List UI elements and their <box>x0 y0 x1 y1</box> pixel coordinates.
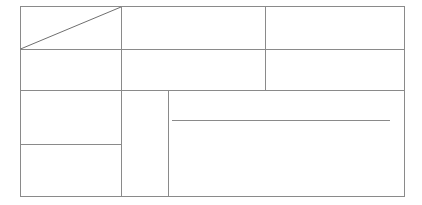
form-diagram <box>0 0 422 205</box>
form-diagram-canvas <box>0 0 422 205</box>
